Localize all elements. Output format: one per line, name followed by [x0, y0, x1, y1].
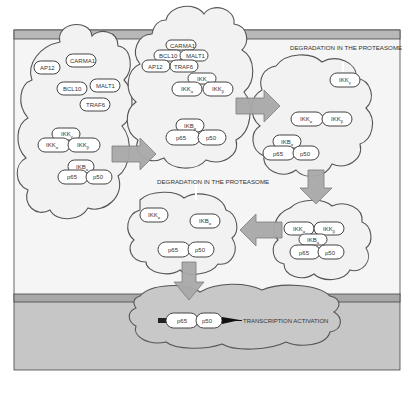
- label-bcl10: BCL10: [159, 53, 178, 59]
- label-p50: p50: [195, 247, 206, 253]
- label-ap12: AP12: [148, 64, 163, 70]
- label-p50: p50: [206, 135, 217, 141]
- degradation-label-top: DEGRADATION IN THE PROTEASOME: [290, 44, 402, 51]
- label-p50: p50: [325, 250, 336, 256]
- degradation-label-mid: DEGRADATION IN THE PROTEASOME: [157, 178, 269, 185]
- label-carma1: CARMA1: [70, 58, 96, 64]
- nucleus-cloud: [129, 284, 340, 349]
- label-p65: p65: [168, 247, 179, 253]
- label-p65: p65: [299, 250, 310, 256]
- label-ap12: AP12: [40, 65, 55, 71]
- label-traf6: TRAF6: [174, 64, 194, 70]
- label-p65: p65: [177, 318, 188, 324]
- label-malt1: MALT1: [96, 83, 116, 89]
- label-malt1: MALT1: [186, 53, 206, 59]
- label-p65: p65: [273, 151, 284, 157]
- label-carma1: CARMA1: [170, 43, 196, 49]
- label-traf6: TRAF6: [86, 102, 106, 108]
- label-bcl10: BCL10: [63, 86, 82, 92]
- label-p50: p50: [300, 151, 311, 157]
- label-p65: p65: [67, 174, 78, 180]
- transcription-label: TRANSCRIPTION ACTIVATION: [243, 318, 328, 324]
- label-p50: p50: [202, 318, 213, 324]
- nfkb-pathway-diagram: DEGRADATION IN THE PROTEASOME DEGRADATIO…: [0, 0, 410, 402]
- label-p65: p65: [176, 135, 187, 141]
- label-p50: p50: [93, 174, 104, 180]
